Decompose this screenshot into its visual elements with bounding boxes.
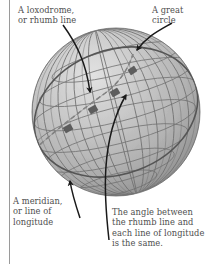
label-meridian: A meridian, or line of longitude xyxy=(13,196,62,227)
label-loxodrome: A loxodrome, or rhumb line xyxy=(18,5,76,26)
figure-canvas: A loxodrome, or rhumb line A great circl… xyxy=(0,0,217,264)
label-great-circle: A great circle xyxy=(152,5,183,26)
label-angle-note: The angle between the rhumb line and eac… xyxy=(112,207,204,249)
